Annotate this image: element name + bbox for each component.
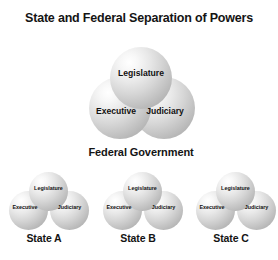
state-a-caption: State A [0,232,88,244]
state-b-caption: State B [94,232,182,244]
diagram-title: State and Federal Separation of Powers [0,11,278,25]
state-b-judiciary-label: Judiciary [142,204,185,210]
state-c-cluster: Legislature Executive Judiciary State C [187,170,278,260]
state-b-legislature-label: Legislature [121,185,164,191]
state-c-legislature-label: Legislature [214,185,257,191]
federal-government-cluster: Legislature Executive Judiciary Federal … [86,44,196,164]
state-c-caption: State C [187,232,275,244]
state-c-judiciary-label: Judiciary [235,204,278,210]
state-b-executive-label: Executive [98,204,140,210]
state-a-legislature-label: Legislature [27,185,70,191]
federal-judiciary-label: Judiciary [134,106,196,116]
state-c-executive-label: Executive [191,204,233,210]
state-a-executive-label: Executive [4,204,46,210]
federal-legislature-sphere [110,47,172,109]
federal-legislature-label: Legislature [110,68,172,78]
state-a-cluster: Legislature Executive Judiciary State A [0,170,94,260]
federal-government-caption: Federal Government [80,146,202,158]
state-b-cluster: Legislature Executive Judiciary State B [94,170,188,260]
state-a-judiciary-label: Judiciary [48,204,91,210]
separation-of-powers-diagram: State and Federal Separation of Powers L… [0,0,278,260]
